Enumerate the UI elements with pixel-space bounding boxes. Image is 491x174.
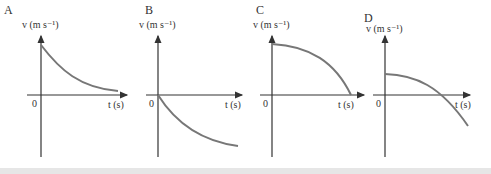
x-axis-label-c: t (s) xyxy=(338,100,354,110)
graph-label-a: A xyxy=(4,4,13,16)
x-axis-label-a: t (s) xyxy=(108,100,124,110)
origin-label-a: 0 xyxy=(32,99,37,109)
y-axis-label-d: v (m s⁻¹) xyxy=(366,24,403,34)
graph-d xyxy=(373,36,470,157)
graph-a xyxy=(27,36,127,157)
origin-label-d: 0 xyxy=(376,99,381,109)
graph-c xyxy=(260,36,364,157)
x-axis-label-d: t (s) xyxy=(455,100,471,110)
y-axis-label-b: v (m s⁻¹) xyxy=(139,20,176,30)
origin-label-c: 0 xyxy=(263,99,268,109)
velocity-curve xyxy=(272,44,351,95)
y-axis-label-c: v (m s⁻¹) xyxy=(253,20,290,30)
velocity-curve xyxy=(41,45,118,91)
bottom-divider xyxy=(0,168,491,174)
graph-label-b: B xyxy=(145,4,153,16)
y-axis-label-a: v (m s⁻¹) xyxy=(22,20,59,30)
graph-b xyxy=(146,36,242,157)
graphs-canvas xyxy=(0,0,491,174)
origin-label-b: 0 xyxy=(149,99,154,109)
graph-label-c: C xyxy=(256,4,264,16)
x-axis-label-b: t (s) xyxy=(225,100,241,110)
